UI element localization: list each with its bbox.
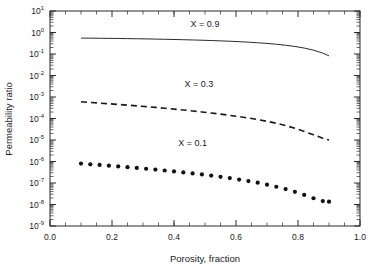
data-point — [172, 169, 176, 173]
data-point — [135, 166, 139, 170]
series-label-1: X = 0.3 — [184, 79, 213, 89]
data-point — [228, 176, 232, 180]
y-tick-label: 10-6 — [29, 156, 44, 167]
series-label-0: X = 0.9 — [191, 19, 220, 29]
data-point — [246, 179, 250, 183]
data-point — [88, 162, 92, 166]
data-point — [191, 171, 195, 175]
data-point — [107, 164, 111, 168]
y-tick-label: 10-3 — [29, 91, 44, 102]
y-tick-label: 10-8 — [29, 199, 44, 210]
x-tick-label: 0.2 — [106, 232, 118, 242]
data-point — [327, 200, 331, 204]
series-annotations: X = 0.9X = 0.3X = 0.1 — [178, 19, 219, 149]
y-axis-ticks — [50, 11, 360, 226]
chart-svg: 0.00.20.40.60.81.0 10110010-110-210-310-… — [0, 0, 376, 268]
y-tick-label: 10-7 — [29, 177, 44, 188]
y-tick-label: 101 — [31, 5, 44, 16]
data-point — [181, 170, 185, 174]
data-point — [209, 173, 213, 177]
series-label-2: X = 0.1 — [178, 138, 207, 148]
x-tick-label: 0.8 — [292, 232, 304, 242]
data-point — [293, 190, 297, 194]
data-point — [274, 185, 278, 189]
data-point — [98, 163, 102, 167]
data-point — [144, 167, 148, 171]
data-point — [321, 199, 325, 203]
y-axis-tick-labels: 10110010-110-210-310-410-510-610-710-810… — [29, 5, 44, 231]
permeability-porosity-chart: 0.00.20.40.60.81.0 10110010-110-210-310-… — [0, 0, 376, 268]
data-point — [284, 187, 288, 191]
x-axis-tick-labels: 0.00.20.40.60.81.0 — [44, 232, 366, 242]
data-curves — [79, 38, 331, 204]
curve-dotted-x-0-1 — [79, 161, 331, 203]
x-tick-label: 0.4 — [168, 232, 180, 242]
y-axis-label: Permeability ratio — [3, 82, 14, 155]
y-tick-label: 10-4 — [29, 113, 44, 124]
curve-solid-x-0-9 — [81, 38, 329, 56]
data-point — [200, 172, 204, 176]
x-tick-label: 0.0 — [44, 232, 56, 242]
y-tick-label: 10-1 — [29, 48, 44, 59]
data-point — [153, 168, 157, 172]
data-point — [302, 193, 306, 197]
data-point — [256, 181, 260, 185]
x-tick-label: 0.6 — [230, 232, 242, 242]
curve-dashed-x-0-3 — [81, 102, 329, 140]
data-point — [79, 161, 83, 165]
data-point — [311, 196, 315, 200]
x-tick-label: 1.0 — [354, 232, 366, 242]
data-point — [125, 165, 129, 169]
x-axis-ticks — [50, 11, 360, 226]
plot-frame — [50, 11, 360, 226]
y-tick-label: 100 — [31, 27, 44, 38]
x-axis-label: Porosity, fraction — [170, 253, 240, 264]
data-point — [218, 175, 222, 179]
data-point — [116, 164, 120, 168]
data-point — [237, 177, 241, 181]
y-tick-label: 10-5 — [29, 134, 44, 145]
data-point — [163, 168, 167, 172]
y-tick-label: 10-9 — [29, 220, 44, 231]
data-point — [265, 183, 269, 187]
y-tick-label: 10-2 — [29, 70, 44, 81]
